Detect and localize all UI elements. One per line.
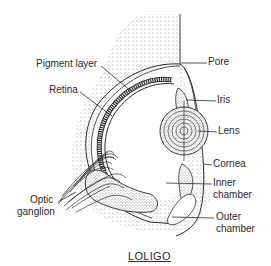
label-outer-chamber-2: chamber xyxy=(216,223,255,235)
label-iris: Iris xyxy=(217,94,230,106)
label-retina: Retina xyxy=(49,84,78,96)
label-pigment-layer: Pigment layer xyxy=(36,58,97,70)
loligo-eye-diagram: Pigment layer Retina Optic ganglion Pore… xyxy=(0,0,271,266)
label-inner-chamber-1: Inner xyxy=(213,177,236,189)
label-lens: Lens xyxy=(218,125,240,137)
label-outer-chamber-1: Outer xyxy=(216,211,241,223)
label-pore: Pore xyxy=(208,56,229,68)
label-cornea: Cornea xyxy=(213,158,246,170)
label-inner-chamber-2: chamber xyxy=(213,189,252,201)
label-optic-ganglion-1: Optic xyxy=(30,194,53,206)
diagram-title: LOLIGO xyxy=(128,250,171,262)
label-optic-ganglion-2: ganglion xyxy=(17,206,55,218)
